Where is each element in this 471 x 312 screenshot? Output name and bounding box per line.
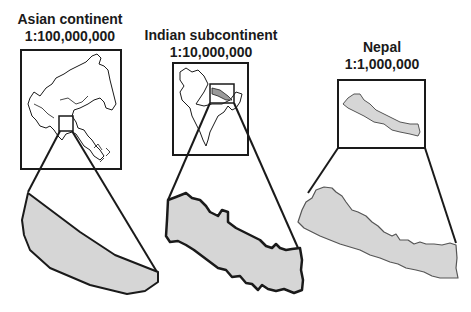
nepal-shape-asia-zoom [22,193,158,294]
diagram-graphics [0,0,471,312]
nepal-shape-india-zoom [166,193,303,293]
map-scale-diagram: Asian continent 1:100,000,000 Indian sub… [0,0,471,312]
india-map-panel [166,63,303,293]
asia-map-panel [21,50,158,294]
nepal-detailed-outline [298,187,458,278]
nepal-map-panel [298,80,458,278]
